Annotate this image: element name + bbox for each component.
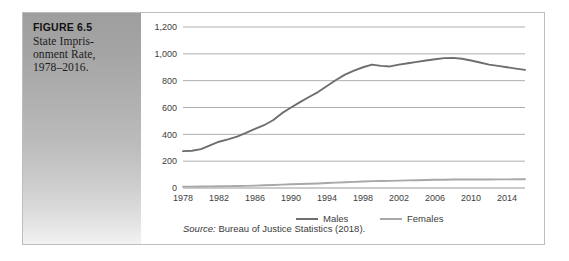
x-tick-label: 2006 [425,193,445,203]
x-tick-label: 1986 [245,193,265,203]
x-tick-label: 1994 [317,193,337,203]
y-tick-label: 400 [162,130,177,140]
chart-region: 02004006008001,0001,200 1978198219861990… [141,13,544,244]
figure-title: State Impris- onment Rate, 1978–2016. [33,35,135,75]
y-tick-label: 600 [162,103,177,113]
line-chart: 02004006008001,0001,200 1978198219861990… [141,13,544,244]
y-axis-tick-labels: 02004006008001,0001,200 [154,22,177,193]
figure-label: FIGURE 6.5 [33,21,135,34]
x-tick-label: 2002 [389,193,409,203]
y-tick-label: 800 [162,76,177,86]
x-tick-label: 1978 [173,193,193,203]
y-tick-label: 1,000 [154,49,177,59]
caption-text-block: FIGURE 6.5 State Impris- onment Rate, 19… [33,21,135,75]
x-tick-label: 2010 [461,193,481,203]
x-tick-label: 1982 [209,193,229,203]
source-prefix: Source: [183,223,216,234]
x-tick-label: 1998 [353,193,373,203]
caption-panel: FIGURE 6.5 State Impris- onment Rate, 19… [23,13,141,244]
source-note: Source: Bureau of Justice Statistics (20… [183,223,365,234]
data-series [183,58,525,187]
y-tick-label: 0 [172,183,177,193]
figure-title-line-1: State Impris- [33,35,135,48]
y-tick-label: 1,200 [154,22,177,32]
y-tick-label: 200 [162,156,177,166]
figure-title-line-3: 1978–2016. [33,61,135,74]
legend-label-females: Females [407,213,444,224]
series-line-females [183,179,525,186]
x-axis-tick-labels: 1978198219861990199419982002200620102014 [173,193,517,203]
figure-title-line-2: onment Rate, [33,48,135,61]
x-tick-label: 2014 [497,193,517,203]
figure-root: FIGURE 6.5 State Impris- onment Rate, 19… [0,0,569,261]
x-tick-label: 1990 [281,193,301,203]
figure-container: FIGURE 6.5 State Impris- onment Rate, 19… [22,12,545,245]
source-text: Bureau of Justice Statistics (2018). [216,223,365,234]
series-line-males [183,58,525,151]
gridlines [183,27,525,188]
